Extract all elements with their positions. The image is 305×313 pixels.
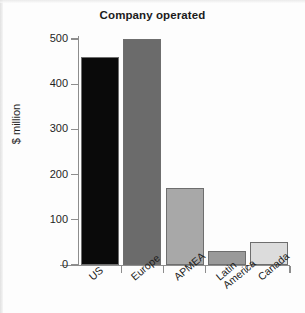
x-axis-tick — [121, 266, 122, 273]
chart-title: Company operated — [0, 9, 305, 21]
x-axis-tick — [205, 266, 206, 273]
bar — [81, 57, 119, 265]
y-axis-tick — [71, 174, 79, 175]
y-axis-tick-label: 100 — [26, 213, 68, 225]
y-axis-tick — [71, 264, 79, 265]
scan-top-artifact — [0, 0, 305, 3]
y-axis-tick — [71, 38, 79, 39]
y-axis-tick — [71, 219, 79, 220]
y-axis-tick-label: 300 — [26, 122, 68, 134]
y-axis-line — [78, 36, 79, 266]
y-axis-tick — [71, 84, 79, 85]
x-axis-tick — [289, 266, 290, 273]
x-axis-tick — [163, 266, 164, 273]
y-axis-label: $ million — [10, 84, 22, 164]
y-axis-tick-label: 0 — [26, 258, 68, 270]
bar — [123, 39, 161, 265]
y-axis-tick-label: 400 — [26, 77, 68, 89]
bar-chart: Company operated $ million 0100200300400… — [0, 0, 305, 313]
scan-edge-artifact — [0, 0, 3, 313]
y-axis-tick-label: 500 — [26, 32, 68, 44]
y-axis-tick — [71, 129, 79, 130]
x-axis-tick-label: US — [87, 265, 105, 283]
y-axis-tick-label: 200 — [26, 168, 68, 180]
